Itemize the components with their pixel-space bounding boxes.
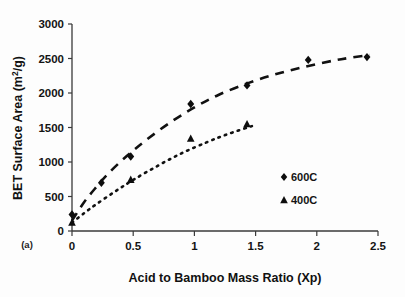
data-point-600c	[305, 56, 312, 64]
y-axis-ticks: 050010001500200025003000	[38, 18, 72, 237]
y-axis-title-tail: /g)	[11, 56, 25, 71]
legend: 600C 400C	[280, 171, 317, 206]
x-tick-label: 1.5	[248, 240, 265, 252]
legend-entry-600c: 600C	[281, 171, 318, 183]
axes-group	[72, 24, 378, 231]
data-point-400c	[243, 120, 251, 127]
fit-curve-400c	[72, 126, 252, 223]
data-points-group	[68, 53, 370, 226]
x-axis-ticks: 00.511.522.5	[69, 231, 387, 252]
y-tick-label: 2500	[38, 53, 64, 65]
legend-label-400c: 400C	[291, 194, 317, 206]
panel-label: (a)	[21, 239, 33, 250]
fit-curves-group	[72, 55, 369, 223]
diamond-icon	[281, 173, 288, 181]
data-point-400c	[187, 135, 195, 142]
bet-surface-area-scatter-chart: 050010001500200025003000 00.511.522.5 60…	[0, 0, 405, 297]
legend-label-600c: 600C	[291, 171, 317, 183]
y-tick-label: 0	[58, 225, 64, 237]
data-point-600c	[364, 53, 371, 61]
x-tick-label: 1	[191, 240, 198, 252]
x-tick-label: 0	[69, 240, 75, 252]
legend-entry-400c: 400C	[280, 194, 317, 206]
triangle-icon	[280, 196, 288, 203]
data-point-400c	[68, 218, 76, 225]
y-axis-title-group: BET Surface Area (m2/g)	[10, 56, 25, 200]
figure-panel: 050010001500200025003000 00.511.522.5 60…	[0, 0, 405, 297]
y-tick-label: 3000	[38, 18, 64, 30]
y-tick-label: 1500	[38, 122, 64, 134]
x-axis-title: Acid to Bamboo Mass Ratio (Xp)	[128, 271, 321, 285]
y-tick-label: 2000	[38, 87, 64, 99]
y-axis-title-base: BET Surface Area (m	[11, 76, 25, 200]
y-tick-label: 500	[45, 191, 64, 203]
y-axis-title: BET Surface Area (m2/g)	[10, 56, 25, 200]
x-tick-label: 2	[314, 240, 320, 252]
x-tick-label: 0.5	[125, 240, 142, 252]
x-tick-label: 2.5	[370, 240, 387, 252]
y-tick-label: 1000	[38, 156, 64, 168]
